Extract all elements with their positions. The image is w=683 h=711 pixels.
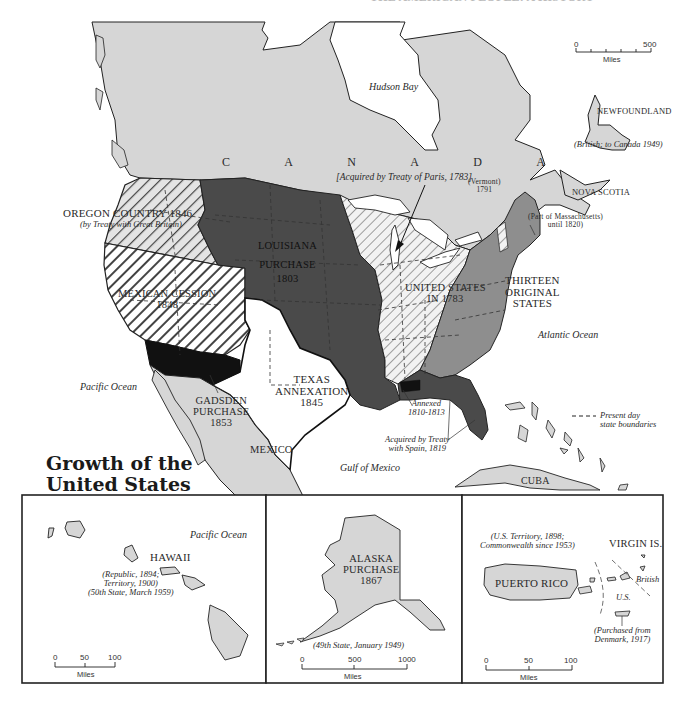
- label-texas-annexation: TEXAS ANNEXATION 1845: [275, 374, 349, 409]
- label-treaty-spain: Acquired by Treaty with Spain, 1819: [385, 435, 450, 453]
- alaska-name: ALASKA PURCHASE 1867: [343, 553, 399, 586]
- title-line-2: United States: [46, 474, 193, 495]
- map-canvas: [0, 0, 683, 711]
- virgin-us-label: U.S.: [616, 593, 631, 602]
- hawaii-scale-0: 0: [53, 654, 57, 662]
- caribbean-scale-0: 0: [484, 657, 488, 665]
- alaska-scale-unit: Miles: [344, 673, 362, 681]
- alaska-scale-0: 0: [300, 656, 304, 664]
- gadsden-line-2: PURCHASE: [193, 406, 249, 417]
- hawaii-name: HAWAII: [150, 552, 191, 564]
- louisiana-line-1: LOUISIANA: [258, 240, 317, 251]
- texas-line-3: 1845: [275, 397, 349, 409]
- puerto-rico-name: PUERTO RICO: [495, 578, 568, 590]
- label-gulf-of-mexico: Gulf of Mexico: [340, 463, 400, 474]
- hawaii-note-3: (50th State, March 1959): [88, 588, 174, 597]
- spain-line-2: with Spain, 1819: [385, 444, 450, 453]
- thirteen-line-1: THIRTEEN: [505, 275, 560, 287]
- maine-line-2: until 1820): [528, 221, 603, 229]
- label-thirteen-original-states: THIRTEEN ORIGINAL STATES: [505, 275, 560, 310]
- page-title: Growth of the United States: [46, 453, 193, 494]
- label-us-1783: UNITED STATES IN 1783: [405, 282, 486, 304]
- us1783-line-2: IN 1783: [405, 293, 486, 304]
- alaska-line-3: 1867: [343, 575, 399, 586]
- hawaii-scale-unit: Miles: [77, 671, 95, 679]
- alaska-line-2: PURCHASE: [343, 564, 399, 575]
- label-oregon-country: OREGON COUNTRY 1846: [63, 208, 192, 220]
- vermont-line-2: 1791: [468, 186, 501, 194]
- alaska-scale-500: 500: [348, 656, 361, 664]
- label-vermont: (Vermont) 1791: [468, 178, 501, 194]
- label-louisiana-purchase: LOUISIANA PURCHASE 1803: [258, 240, 317, 284]
- hawaii-scale-100: 100: [108, 654, 121, 662]
- hawaii-scale-50: 50: [80, 654, 89, 662]
- label-mexico: MEXICO: [250, 444, 293, 455]
- alaska-scale-1000: 1000: [398, 656, 416, 664]
- label-pacific-ocean: Pacific Ocean: [80, 382, 137, 393]
- vi-note-2: Denmark, 1917): [594, 635, 651, 644]
- gadsden-line-3: 1853: [193, 417, 249, 428]
- label-nova-scotia: NOVA SCOTIA: [572, 188, 630, 197]
- louisiana-line-2: PURCHASE: [258, 259, 317, 270]
- main-scale-unit: Miles: [603, 56, 621, 64]
- label-hudson-bay: Hudson Bay: [369, 82, 418, 93]
- label-newfoundland-note: (British; to Canada 1949): [574, 140, 663, 149]
- main-scale-tick-0: 0: [574, 41, 578, 49]
- label-newfoundland: NEWFOUNDLAND: [597, 107, 672, 116]
- label-gadsden-purchase: GADSDEN PURCHASE 1853: [193, 395, 249, 428]
- thirteen-line-3: STATES: [505, 298, 560, 310]
- hawaii-note: (Republic, 1894; Territory, 1900) (50th …: [88, 570, 174, 597]
- alaska-line-1: ALASKA: [343, 553, 399, 564]
- texas-line-1: TEXAS: [275, 374, 349, 386]
- virgin-purchase-note: (Purchased from Denmark, 1917): [594, 626, 651, 644]
- label-treaty-of-paris: [Acquired by Treaty of Paris, 1783]: [336, 173, 472, 183]
- label-oregon-note: (by Treaty with Great Britain): [80, 220, 182, 229]
- virgin-islands-name: VIRGIN IS.: [609, 538, 662, 549]
- title-line-1: Growth of the: [46, 453, 193, 474]
- label-atlantic-ocean: Atlantic Ocean: [538, 330, 598, 341]
- main-scale-bar: [576, 48, 651, 52]
- mexican-cession-name: MEXICAN CESSION: [118, 288, 216, 299]
- alaska-note: (49th State, January 1949): [313, 641, 404, 650]
- virgin-british-label: British: [636, 575, 659, 584]
- label-cuba: CUBA: [521, 476, 550, 487]
- label-maine: (Part of Massachusetts) until 1820): [528, 213, 603, 229]
- annexed-line-2: 1810-1813: [408, 408, 445, 417]
- mexican-cession-year: 1848: [118, 299, 216, 310]
- puerto-rico-note: (U.S. Territory, 1898; Commonwealth sinc…: [480, 532, 575, 550]
- caribbean-scale-100: 100: [564, 657, 577, 665]
- gadsden-line-1: GADSDEN: [193, 395, 249, 406]
- caribbean-scale-unit: Miles: [520, 674, 538, 682]
- legend-line-2: state boundaries: [600, 420, 656, 429]
- label-mexican-cession: MEXICAN CESSION 1848: [118, 288, 216, 310]
- legend-boundary-label: Present day state boundaries: [600, 411, 656, 429]
- louisiana-line-3: 1803: [258, 273, 317, 284]
- header-fragment: THE AMERICAN PEOPLE: A HISTORY: [370, 0, 594, 4]
- us1783-line-1: UNITED STATES: [405, 282, 486, 293]
- caribbean-scale-50: 50: [524, 657, 533, 665]
- label-canada: C A N A D A: [222, 156, 571, 169]
- hawaii-pacific-ocean: Pacific Ocean: [190, 530, 247, 541]
- label-annexed: Annexed 1810-1813: [408, 399, 445, 417]
- pr-note-2: Commonwealth since 1953): [480, 541, 575, 550]
- main-scale-tick-500: 500: [643, 41, 656, 49]
